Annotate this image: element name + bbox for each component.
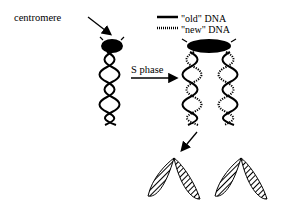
legend-old-dna-label: "old" DNA — [181, 13, 226, 24]
centromere-blob — [101, 39, 123, 53]
centromere-label: centromere — [14, 12, 61, 23]
centromere-pointer-arrow — [88, 17, 110, 34]
duplicated-chromosome — [182, 39, 238, 125]
diagram-canvas — [0, 0, 285, 213]
condensed-chromatid-pair-left — [148, 158, 200, 199]
legend-new-dna-label: "new" DNA — [181, 24, 230, 35]
condensed-chromatid-pair-right — [215, 158, 267, 199]
shared-centromere-blob — [187, 39, 231, 53]
condensation-arrow — [182, 132, 197, 150]
s-phase-label: S phase — [131, 64, 163, 75]
original-chromosome — [100, 37, 125, 125]
